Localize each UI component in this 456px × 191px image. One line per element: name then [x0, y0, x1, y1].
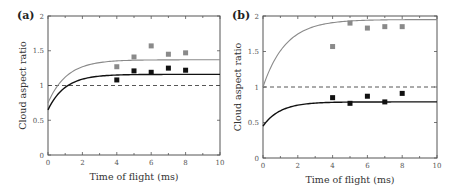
- x-tick-label: 0: [261, 162, 265, 170]
- x-tick-label: 0: [46, 159, 50, 167]
- panel-b: 024681000.511.52Time of flight (ms)Cloud…: [232, 9, 441, 185]
- x-tick-label: 2: [296, 162, 300, 170]
- panel-label: (a): [17, 9, 35, 22]
- panel-label: (b): [232, 9, 250, 22]
- y-tick-label: 0.5: [33, 117, 44, 125]
- x-tick-label: 6: [365, 162, 370, 170]
- y-axis-label: Cloud aspect ratio: [17, 41, 28, 130]
- y-tick-label: 0: [255, 155, 259, 163]
- x-tick-label: 4: [115, 159, 120, 167]
- panel-a: 024681000.511.52Time of flight (ms)Cloud…: [17, 9, 224, 182]
- y-axis-label: Cloud aspect ratio: [232, 43, 243, 132]
- x-tick-label: 2: [80, 159, 84, 167]
- grey-data-point: [183, 50, 188, 55]
- x-tick-label: 4: [330, 162, 335, 170]
- x-tick-label: 8: [183, 159, 187, 167]
- black-data-point: [132, 68, 137, 73]
- y-tick-label: 1: [40, 82, 44, 90]
- grey-data-point: [365, 26, 370, 31]
- x-tick-label: 10: [216, 159, 225, 167]
- grey-data-point: [114, 64, 119, 69]
- x-tick-label: 6: [149, 159, 154, 167]
- grey-data-point: [382, 24, 387, 29]
- grey-data-point: [132, 55, 137, 60]
- grey-data-point: [149, 43, 154, 48]
- y-tick-label: 0.5: [248, 119, 259, 127]
- black-data-point: [330, 95, 335, 100]
- x-tick-label: 8: [400, 162, 404, 170]
- x-axis-label: Time of flight (ms): [306, 174, 395, 185]
- black-data-point: [183, 68, 188, 73]
- x-axis-label: Time of flight (ms): [90, 171, 179, 182]
- black-data-point: [149, 70, 154, 75]
- grey-data-point: [348, 21, 353, 26]
- grey-data-point: [166, 52, 171, 57]
- black-data-point: [400, 91, 405, 96]
- black-data-point: [365, 94, 370, 99]
- black-data-point: [382, 99, 387, 104]
- figure: 024681000.511.52Time of flight (ms)Cloud…: [0, 0, 456, 191]
- y-tick-label: 1.5: [248, 48, 259, 56]
- y-tick-label: 1: [255, 84, 259, 92]
- grey-theory-curve: [263, 20, 437, 87]
- y-tick-label: 0: [40, 152, 44, 160]
- black-data-point: [166, 66, 171, 71]
- grey-data-point: [400, 24, 405, 29]
- y-tick-label: 2: [40, 13, 44, 21]
- black-data-point: [348, 101, 353, 106]
- black-theory-curve: [48, 74, 220, 109]
- grey-data-point: [330, 44, 335, 49]
- y-tick-label: 1.5: [33, 47, 44, 55]
- y-tick-label: 2: [255, 13, 259, 21]
- black-data-point: [114, 77, 119, 82]
- grey-theory-curve: [48, 60, 220, 103]
- x-tick-label: 10: [433, 162, 442, 170]
